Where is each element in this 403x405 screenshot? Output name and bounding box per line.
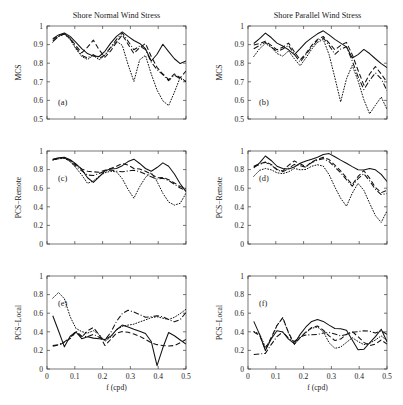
series-line-dashed — [254, 36, 387, 85]
panel-d: 00.20.40.60.81PCS−Remote(d) — [215, 147, 387, 249]
x-tick-label: 0.1 — [70, 372, 80, 381]
panel-e: 00.10.20.30.40.500.20.40.60.81PCS−Localf… — [14, 272, 191, 392]
x-tick-label: 0.4 — [354, 372, 364, 381]
data-layer — [53, 157, 186, 205]
axes-box — [47, 151, 186, 244]
panel-tag: (f) — [259, 299, 268, 308]
series-line-dashdot — [254, 159, 387, 195]
panel-c: 00.20.40.60.81PCS−Remote(c) — [14, 147, 186, 249]
series-line-solid — [254, 320, 387, 351]
y-tick-label: 0.4 — [34, 328, 44, 337]
data-layer — [53, 293, 186, 366]
y-tick-label: 0 — [39, 365, 43, 374]
y-tick-label: 0.2 — [34, 221, 44, 230]
y-tick-label: 0.8 — [235, 59, 245, 68]
y-tick-label: 1 — [39, 22, 43, 31]
series-line-dashed — [53, 328, 186, 347]
y-tick-label: 0.8 — [34, 59, 44, 68]
y-tick-label: 0.6 — [34, 309, 44, 318]
panel-tag: (d) — [259, 174, 269, 183]
data-layer — [254, 31, 387, 114]
x-tick-label: 0.1 — [271, 372, 281, 381]
y-tick-label: 0.8 — [34, 165, 44, 174]
y-tick-label: 0.6 — [235, 184, 245, 193]
series-line-solid — [53, 316, 186, 366]
data-layer — [53, 32, 186, 106]
y-tick-label: 0.8 — [235, 290, 245, 299]
y-tick-label: 0.2 — [235, 346, 245, 355]
x-tick-label: 0.3 — [126, 372, 136, 381]
x-tick-label: 0 — [45, 372, 49, 381]
panel-tag: (a) — [58, 98, 68, 107]
y-tick-label: 1 — [39, 147, 43, 156]
y-axis-label: PCS−Remote — [14, 176, 23, 218]
panel-title: Shore Normal Wind Stress — [73, 11, 161, 20]
series-line-dashdot — [254, 331, 387, 355]
data-layer — [254, 154, 387, 223]
series-line-dashdot — [53, 158, 186, 191]
series-line-dotted — [53, 34, 186, 105]
x-tick-label: 0.2 — [98, 372, 108, 381]
y-tick-label: 0.9 — [235, 40, 245, 49]
panel-title: Shore Parallel Wind Stress — [274, 11, 362, 20]
y-tick-label: 0.6 — [34, 96, 44, 105]
y-tick-label: 0.4 — [235, 328, 245, 337]
x-tick-label: 0.2 — [299, 372, 309, 381]
series-line-dashdot — [254, 38, 387, 91]
x-axis-label: f (cpd) — [307, 383, 328, 392]
y-tick-label: 0.7 — [34, 78, 44, 87]
y-tick-label: 0.2 — [34, 346, 44, 355]
x-axis-label: f (cpd) — [106, 383, 127, 392]
y-tick-label: 0 — [240, 240, 244, 249]
y-tick-label: 0 — [39, 240, 43, 249]
y-tick-label: 0.4 — [235, 203, 245, 212]
y-tick-label: 0.6 — [34, 184, 44, 193]
y-tick-label: 0.4 — [34, 203, 44, 212]
series-line-dotted — [254, 318, 387, 348]
y-axis-label: PCS−Local — [215, 305, 224, 340]
multi-panel-line-chart: 0.50.60.70.80.91MCSShore Normal Wind Str… — [0, 0, 403, 405]
y-tick-label: 0.9 — [34, 40, 44, 49]
x-tick-label: 0.5 — [181, 372, 191, 381]
panel-b: 0.50.60.70.80.91MCSShore Parallel Wind S… — [215, 11, 387, 124]
y-tick-label: 0.2 — [235, 221, 245, 230]
panel-a: 0.50.60.70.80.91MCSShore Normal Wind Str… — [14, 11, 186, 124]
series-line-dotted — [254, 165, 387, 223]
y-axis-label: MCS — [215, 64, 224, 80]
panel-tag: (b) — [259, 98, 269, 107]
x-tick-label: 0.5 — [382, 372, 392, 381]
y-tick-label: 0.8 — [235, 165, 245, 174]
figure-container: 0.50.60.70.80.91MCSShore Normal Wind Str… — [0, 0, 403, 405]
y-tick-label: 1 — [240, 147, 244, 156]
y-axis-label: MCS — [14, 64, 23, 80]
panel-tag: (e) — [58, 299, 68, 308]
y-axis-label: PCS−Local — [14, 305, 23, 340]
y-tick-label: 0.6 — [235, 309, 245, 318]
y-tick-label: 0.7 — [235, 78, 245, 87]
series-line-dashdot — [53, 33, 186, 81]
series-line-dashed — [53, 158, 186, 189]
y-tick-label: 1 — [240, 272, 244, 281]
panel-tag: (c) — [58, 174, 68, 183]
x-tick-label: 0.4 — [153, 372, 163, 381]
y-tick-label: 0.6 — [235, 96, 245, 105]
series-line-dashed — [53, 34, 186, 80]
y-tick-label: 0.5 — [34, 115, 44, 124]
data-layer — [254, 318, 387, 355]
y-tick-label: 1 — [240, 22, 244, 31]
y-tick-label: 0.5 — [235, 115, 245, 124]
x-tick-label: 0 — [246, 372, 250, 381]
y-tick-label: 0 — [240, 365, 244, 374]
y-axis-label: PCS−Remote — [215, 176, 224, 218]
y-tick-label: 0.8 — [34, 290, 44, 299]
panel-f: 00.10.20.30.40.500.20.40.60.81PCS−Localf… — [215, 272, 392, 392]
y-tick-label: 1 — [39, 272, 43, 281]
x-tick-label: 0.3 — [327, 372, 337, 381]
series-line-solid — [53, 157, 186, 191]
series-line-dotted — [254, 39, 387, 113]
axes-box — [248, 276, 387, 369]
